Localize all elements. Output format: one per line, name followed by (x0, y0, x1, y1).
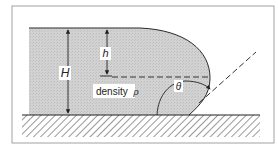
solid-substrate (22, 115, 260, 137)
puddle-diagram: H h density ρ θ (0, 0, 278, 154)
h-label: h (102, 47, 108, 59)
liquid-drop (29, 28, 210, 115)
theta-label: θ (176, 81, 182, 92)
H-label: H (61, 66, 70, 80)
